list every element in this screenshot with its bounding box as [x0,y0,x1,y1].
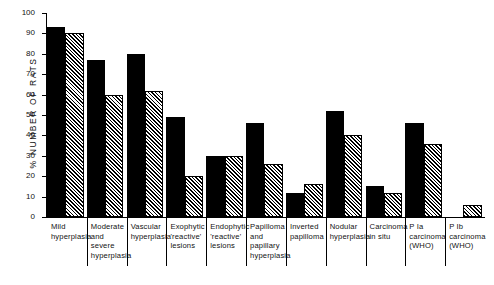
bar [105,95,123,217]
category-label-text: P Ia carcinoma (WHO) [409,222,445,250]
y-tick-label: 10 [26,193,35,201]
bar [384,193,402,217]
bar-group [47,13,87,217]
category-divider [127,218,128,266]
bar [206,156,224,217]
y-tick-label: 40 [26,131,35,139]
category-divider [445,218,446,266]
category-label-text: Papilloma and papillary hyperplasia [250,222,291,260]
y-tick-label: 50 [26,111,35,119]
category-label-text: Moderate and severe hyperplasia [91,222,132,260]
bar [424,144,442,217]
plot-area: 1009080706050403020100 [47,13,485,217]
y-tick-label: 100 [22,9,35,17]
bar [366,186,384,217]
y-tick-label: 80 [26,50,35,58]
bar [145,91,163,217]
category-label-text: Inverted papilloma [290,222,324,241]
bar-series-container [47,13,485,217]
category-divider [366,218,367,266]
y-tick-label: 0 [31,213,35,221]
category-label-text: Carcinoma in situ [370,222,408,241]
category-divider [166,218,167,266]
category-label: Mild hyperplasia [47,218,87,241]
y-tick-label: 20 [26,172,35,180]
bar [326,111,344,217]
bar [264,164,282,217]
bar-group [206,13,246,217]
category-label: Papilloma and papillary hyperplasia [246,218,286,260]
bar-group [246,13,286,217]
bar [225,156,243,217]
category-label-text: Mild hyperplasia [51,222,92,241]
bar [286,193,304,217]
category-divider [405,218,406,266]
bar-group [445,13,485,217]
category-label: Moderate and severe hyperplasia [87,218,127,260]
bar [185,176,203,217]
y-tick-label: 70 [26,70,35,78]
y-tick-label: 30 [26,152,35,160]
bar-group [286,13,326,217]
category-divider [206,218,207,266]
category-divider [246,218,247,266]
bar [344,135,362,217]
category-divider [326,218,327,266]
category-label-text: Exophytic 'reactive' lesions [170,222,204,250]
category-divider [87,218,88,266]
bar-group [166,13,206,217]
bar [463,205,481,217]
bar [127,54,145,217]
bar [405,123,423,217]
category-label-text: Nodular hyperplasia [330,222,371,241]
bar-group [326,13,366,217]
bar [304,184,322,217]
category-label: Inverted papilloma [286,218,326,241]
bar [166,117,184,217]
category-label: P Ia carcinoma (WHO) [405,218,445,251]
y-tick-label: 90 [26,29,35,37]
category-label-text: Endophytic 'reactive' lesions [210,222,249,250]
category-label: Nodular hyperplasia [326,218,366,241]
category-label: Endophytic 'reactive' lesions [206,218,246,251]
category-label: Vascular hyperplasia [127,218,167,241]
category-divider [286,218,287,266]
bar-chart-figure: % NUMBER OF RATS 1009080706050403020100 … [0,0,494,285]
category-label-text: Vascular hyperplasia [131,222,172,241]
category-label: Carcinoma in situ [366,218,406,241]
bar-group [405,13,445,217]
bar [87,60,105,217]
bar-group [87,13,127,217]
y-tick-label: 60 [26,91,35,99]
bar-group [366,13,406,217]
bar [246,123,264,217]
category-label: Exophytic 'reactive' lesions [166,218,206,251]
x-axis-category-labels: Mild hyperplasiaModerate and severe hype… [47,218,485,285]
bar [47,27,65,217]
category-label-text: P Ib carcinoma (WHO) [449,222,485,250]
category-label: P Ib carcinoma (WHO) [445,218,485,251]
bar [65,33,83,217]
bar-group [127,13,167,217]
